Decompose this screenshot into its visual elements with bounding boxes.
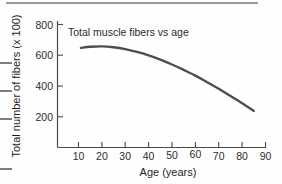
x-tick-label-20: 20 xyxy=(96,150,108,162)
x-tick-label-90: 90 xyxy=(260,150,272,162)
figure-container: 800 600 400 200 10 20 30 40 50 60 70 80 … xyxy=(0,0,282,184)
x-tick-label-30: 30 xyxy=(119,150,131,162)
y-tick-label-800: 800 xyxy=(35,19,53,31)
y-tick-label-200: 200 xyxy=(35,111,53,123)
x-tick-label-60: 60 xyxy=(190,148,202,160)
y-tick-label-400: 400 xyxy=(35,80,53,92)
y-axis-title: Total number of fibers (x 100) xyxy=(10,14,22,157)
x-tick-label-70: 70 xyxy=(213,150,225,162)
chart-title: Total muscle fibers vs age xyxy=(68,26,189,38)
y-tick-label-600: 600 xyxy=(35,49,53,61)
x-tick-label-40: 40 xyxy=(143,150,155,162)
y-axis-ticks xyxy=(58,25,64,117)
x-tick-label-10: 10 xyxy=(73,150,85,162)
x-tick-label-80: 80 xyxy=(236,150,248,162)
x-axis-title: Age (years) xyxy=(140,166,197,178)
data-curve-total-muscle-fibers xyxy=(81,46,254,111)
line-chart: 800 600 400 200 10 20 30 40 50 60 70 80 … xyxy=(0,0,282,184)
x-tick-label-50: 50 xyxy=(166,149,178,161)
x-axis-ticks xyxy=(79,142,266,148)
